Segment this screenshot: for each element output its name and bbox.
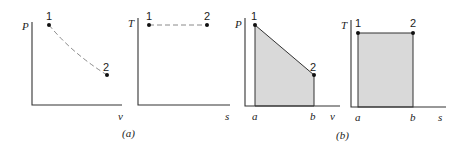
state-point-1 bbox=[147, 23, 151, 27]
y-axis-label: P bbox=[234, 18, 242, 30]
panel-a-pv: P v 1 2 bbox=[21, 10, 123, 122]
x-mark-a: a bbox=[355, 111, 361, 123]
axes bbox=[138, 18, 230, 105]
y-axis-label: T bbox=[128, 17, 135, 29]
state-point-2 bbox=[312, 73, 316, 77]
caption-b: (b) bbox=[336, 129, 349, 142]
panel-b-pv: P v a b 1 2 bbox=[234, 10, 340, 122]
thermo-diagrams: P v 1 2 T s 1 2 (a) P v a b 1 2 T s a bbox=[0, 0, 463, 148]
point-label-2: 2 bbox=[204, 10, 210, 22]
point-label-1: 1 bbox=[146, 10, 152, 22]
panel-a-ts: T s 1 2 bbox=[128, 10, 230, 122]
point-label-1: 1 bbox=[355, 17, 361, 29]
x-axis-label: v bbox=[118, 110, 123, 122]
x-axis-label: s bbox=[438, 111, 442, 123]
point-label-2: 2 bbox=[103, 61, 109, 73]
x-mark-b: b bbox=[410, 111, 416, 123]
point-label-2: 2 bbox=[410, 17, 416, 29]
y-axis-label: T bbox=[341, 19, 348, 31]
state-point-2 bbox=[105, 73, 109, 77]
y-axis-label: P bbox=[21, 20, 29, 32]
state-point-2 bbox=[411, 31, 415, 35]
x-axis-label: v bbox=[330, 110, 335, 122]
work-area bbox=[255, 25, 314, 106]
heat-area bbox=[358, 33, 413, 107]
state-point-1 bbox=[253, 23, 257, 27]
x-axis-label: s bbox=[225, 110, 229, 122]
point-label-1: 1 bbox=[251, 10, 257, 22]
point-label-1: 1 bbox=[46, 10, 52, 22]
process-path bbox=[49, 25, 107, 75]
state-point-1 bbox=[47, 23, 51, 27]
x-mark-b: b bbox=[310, 110, 316, 122]
state-point-1 bbox=[356, 31, 360, 35]
caption-a: (a) bbox=[122, 127, 135, 140]
point-label-2: 2 bbox=[310, 61, 316, 73]
x-mark-a: a bbox=[252, 110, 258, 122]
state-point-2 bbox=[205, 23, 209, 27]
panel-b-ts: T s a b 1 2 bbox=[341, 17, 446, 123]
